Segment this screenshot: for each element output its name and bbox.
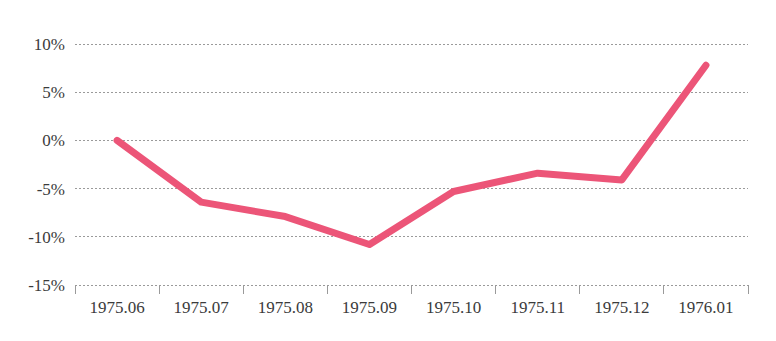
x-axis-tickmarks (75, 285, 748, 294)
x-axis-labels: 1975.061975.071975.081975.091975.101975.… (89, 298, 733, 317)
x-axis-tick-label: 1975.07 (174, 298, 230, 317)
y-axis-tick-label: -10% (28, 228, 65, 247)
y-axis-tick-label: 0% (42, 131, 65, 150)
x-axis-tick-label: 1975.10 (426, 298, 481, 317)
x-axis-tick-label: 1975.09 (342, 298, 397, 317)
x-axis-tick-label: 1975.08 (258, 298, 313, 317)
x-axis-tick-label: 1976.01 (678, 298, 733, 317)
y-axis-labels: 10%5%0%-5%-10%-15% (28, 35, 65, 295)
y-axis-tick-label: -5% (37, 180, 65, 199)
x-axis-tick-label: 1975.06 (89, 298, 144, 317)
gridlines (75, 44, 748, 285)
x-axis-tick-label: 1975.12 (594, 298, 649, 317)
y-axis-tick-label: 10% (34, 35, 65, 54)
line-chart: 10%5%0%-5%-10%-15% 1975.061975.071975.08… (0, 0, 776, 341)
y-axis-tick-label: 5% (42, 83, 65, 102)
chart-canvas: 10%5%0%-5%-10%-15% 1975.061975.071975.08… (0, 0, 776, 341)
y-axis-tick-label: -15% (28, 276, 65, 295)
x-axis-tick-label: 1975.11 (510, 298, 565, 317)
